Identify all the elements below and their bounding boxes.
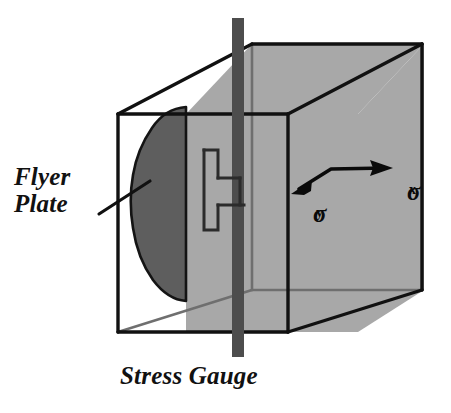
- support-rod: [232, 18, 244, 357]
- sigma-x-label: σ x: [391, 160, 420, 242]
- sigma-y-label: σ y: [297, 182, 326, 264]
- stress-gauge-label: Stress Gauge: [120, 362, 258, 389]
- flyer-plate-label: Flyer Plate: [14, 163, 71, 217]
- sigma-x-subscript: x: [409, 182, 416, 198]
- flyer-plate-blob: [131, 107, 186, 301]
- sigma-y-subscript: y: [316, 205, 323, 221]
- flyer-plate-stress-gauge-figure: Flyer Plate Stress Gauge σ x σ y: [0, 0, 451, 413]
